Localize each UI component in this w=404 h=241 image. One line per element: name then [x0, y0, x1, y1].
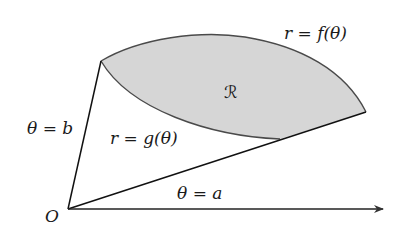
outer-curve-label: r = f(θ): [284, 23, 347, 43]
upper-ray-label: θ = b: [27, 118, 73, 138]
origin-label: O: [45, 206, 59, 226]
polar-region-diagram: r = f(θ) ℛ θ = b r = g(θ) θ = a O: [0, 0, 404, 241]
inner-curve-label: r = g(θ): [110, 128, 178, 148]
lower-ray-label: θ = a: [177, 183, 222, 203]
region-label: ℛ: [224, 82, 238, 102]
